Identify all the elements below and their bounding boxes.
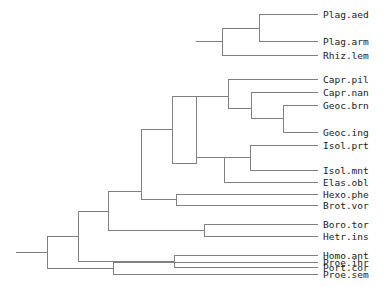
tip-label-capr-pil: Capr.pil: [323, 75, 369, 85]
tip-label-capr-nan: Capr.nan: [323, 88, 369, 98]
tip-label-brot-vor: Brot.vor: [323, 201, 369, 211]
tip-label-isol-prt: Isol.prt: [323, 141, 369, 151]
tip-label-hetr-ins: Hetr.ins: [323, 232, 369, 242]
tip-label-isol-mnt: Isol.mnt: [323, 166, 369, 176]
tip-label-plag-arm: Plag.arm: [323, 37, 369, 47]
tip-label-rhiz-lem: Rhiz.lem: [323, 51, 369, 61]
tip-label-proe-ihr: Proe.ihr: [323, 258, 369, 268]
tip-label-proe-sem: Proe.sem: [323, 270, 369, 280]
tip-label-plag-aed: Plag.aed: [323, 10, 369, 20]
tree-edge-layer: [16, 15, 318, 275]
tip-label-elas-obl: Elas.obl: [323, 178, 369, 188]
phylogenetic-tree-figure: Plag.aedPlag.armRhiz.lemCapr.pilCapr.nan…: [0, 0, 391, 287]
tip-label-geoc-brn: Geoc.brn: [323, 101, 369, 111]
tip-label-hexo-phe: Hexo.phe: [323, 190, 369, 200]
tip-label-boro-tor: Boro.tor: [323, 220, 369, 230]
tip-label-geoc-ing: Geoc.ing: [323, 128, 369, 138]
